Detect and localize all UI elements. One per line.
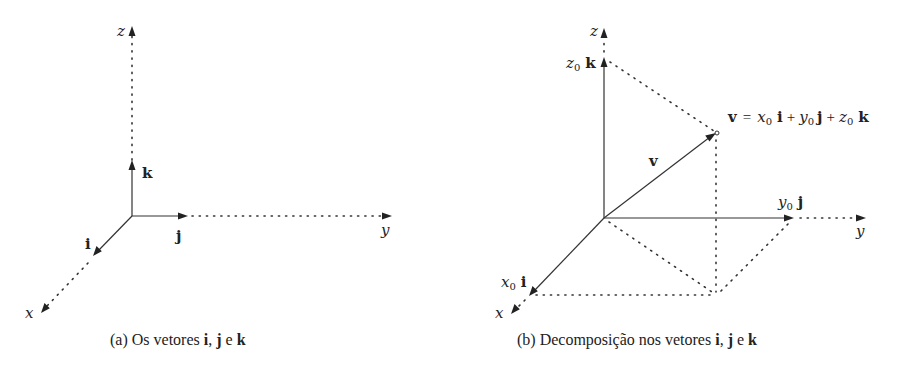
x0i-label: x0i [501,273,527,292]
j-label: j [174,227,181,245]
figure-b: z z0k y y0j x x0i v [495,22,869,322]
vector-diagrams: z k j y i x z z0k [0,0,921,378]
caption-b-j: j [728,331,733,348]
projection-origin-diagonal [609,222,712,292]
figure-a: z k j y i x [25,22,392,322]
v-label: v [648,152,659,170]
z0k-arrowhead [601,57,608,67]
x-axis-dotted [47,263,88,306]
y-axis-arrowhead [382,213,392,220]
y0j-arrowhead [784,215,794,222]
y-axis-label: y [855,222,865,240]
z-axis-label: z [116,22,125,40]
x-axis-label: x [495,304,504,322]
y-axis-arrowhead [856,215,866,222]
j-arrowhead [178,213,188,220]
z-axis-label: z [589,22,598,40]
caption-b-comma: , [720,331,724,348]
x0i-vector [535,218,604,290]
k-label: k [142,164,153,182]
i-label: i [85,235,91,253]
z0k-label: z0k [565,54,596,73]
z-axis-arrowhead [129,26,136,36]
caption-a-e: e [226,331,233,348]
i-arrowhead [93,246,102,256]
caption-a-tag: (a) [110,331,128,348]
k-arrowhead [129,160,136,170]
y-axis-label: y [380,221,390,239]
x-axis-dotted [518,300,525,307]
projection-z0-to-v [610,62,714,131]
z-axis-arrowhead [601,28,608,38]
caption-a-text: Os vetores [132,331,200,348]
v-arrowhead [705,133,716,142]
caption-b: (b) Decomposição nos vetores i, j e k [517,331,757,349]
caption-a: (a) Os vetores i, j e k [110,331,246,349]
caption-a-comma: , [208,331,212,348]
caption-a-j: j [216,331,221,348]
caption-a-k: k [237,331,246,348]
caption-b-tag: (b) [517,331,536,348]
y0j-label: y0j [777,193,803,212]
i-vector [98,216,132,251]
caption-b-e: e [737,331,744,348]
caption-b-text: Decomposição nos vetores [540,331,712,348]
v-vector [604,137,710,218]
v-equation: v = x0i + y0j + z0k [727,108,869,127]
v-endpoint [715,131,719,135]
projection-y0-diagonal [720,224,788,292]
caption-b-k: k [748,331,757,348]
x-axis-label: x [25,304,34,322]
